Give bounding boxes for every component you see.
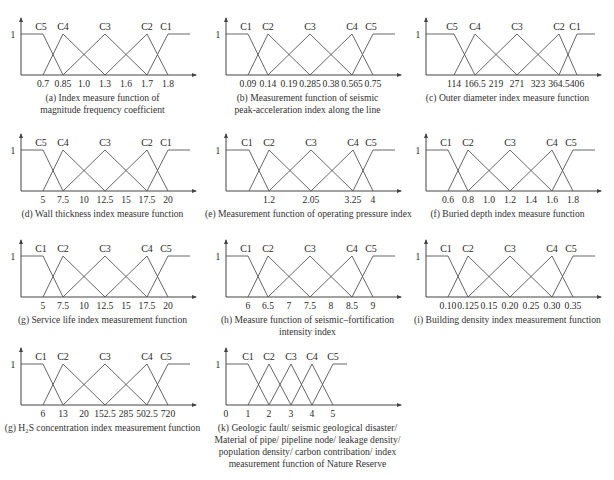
class-label-c5: C5	[565, 243, 577, 254]
x-tick-label: 1	[246, 408, 251, 419]
x-tick-label: 0.15	[481, 300, 498, 311]
curve-c2	[105, 34, 168, 75]
x-tick-labels: 57.51012.51517.520	[41, 194, 173, 205]
panel-caption: (e) Measurement function of operating pr…	[205, 208, 410, 220]
x-tick-label: 406	[570, 78, 585, 89]
class-label-c3: C3	[304, 243, 316, 254]
curve-c5	[147, 364, 190, 405]
class-label-c2: C2	[462, 243, 474, 254]
curve-c3	[475, 34, 559, 75]
class-label-c5: C5	[446, 21, 458, 32]
class-label-c1: C1	[240, 21, 252, 32]
class-labels: C5C4C3C2C1	[35, 137, 172, 148]
caption-line: Material of pipe/ pipeline node/ leakage…	[205, 434, 410, 446]
x-tick-label: 6.5	[262, 300, 274, 311]
x-tick-labels: 0.100.1250.150.200.250.300.35	[440, 300, 582, 311]
curve-c1	[559, 34, 595, 75]
class-label-c1: C1	[569, 21, 581, 32]
x-tick-label: 2.05	[303, 194, 320, 205]
x-tick-label: 1.8	[162, 78, 174, 89]
x-tick-labels: 012345	[224, 408, 336, 419]
curve-c1	[226, 150, 269, 191]
class-label-c4: C4	[469, 21, 481, 32]
y-tick-1: 1	[11, 359, 16, 370]
panel-caption: (k) Geologic fault/ seismic geological d…	[205, 422, 410, 470]
x-tick-labels: 61320152.5285502.5720	[41, 408, 176, 419]
class-label-c2: C2	[141, 137, 153, 148]
x-tick-labels: 66.577.588.59	[246, 300, 376, 311]
curve-c5	[552, 150, 595, 191]
class-labels: C1C2C3C4C5	[242, 351, 339, 362]
x-tick-label: 0.6	[442, 194, 454, 205]
panel-h: 1C1C2C3C4C566.577.588.59(h) Measure func…	[205, 232, 410, 338]
curve-c4	[311, 150, 373, 191]
x-tick-label: 1.4	[525, 194, 537, 205]
x-tick-label: 5	[41, 194, 46, 205]
x-tick-label: 0.7	[37, 78, 49, 89]
curve-c5	[21, 150, 63, 191]
x-tick-labels: 0.70.851.01.31.61.71.8	[37, 78, 174, 89]
class-labels: C5C4C3C2C1	[446, 21, 581, 32]
class-label-c1: C1	[240, 243, 252, 254]
panel-i: 1C1C2C3C4C50.100.1250.150.200.250.300.35…	[405, 232, 610, 326]
curve-c4	[454, 34, 517, 75]
class-label-c2: C2	[462, 137, 474, 148]
membership-curves	[21, 364, 190, 405]
curve-c4	[105, 256, 168, 297]
caption-line: magnitude frequency coefficient	[0, 104, 205, 116]
panel-caption: (a) Index measure function ofmagnitude f…	[0, 92, 205, 116]
plot-d: 1C5C4C3C2C157.51012.51517.520	[0, 126, 205, 208]
x-tick-label: 12.5	[97, 194, 114, 205]
curve-c2	[105, 150, 168, 191]
class-label-c4: C4	[141, 243, 153, 254]
caption-line: (c) Outer diameter index measure functio…	[405, 92, 610, 104]
x-tick-label: 0.10	[440, 300, 457, 311]
curve-c3	[468, 150, 552, 191]
x-tick-labels: 1.22.053.254	[263, 194, 376, 205]
x-tick-label: 20	[163, 194, 173, 205]
class-label-c1: C1	[241, 137, 253, 148]
class-label-c2: C2	[263, 137, 275, 148]
panel-k: 1C1C2C3C4C5012345(k) Geologic fault/ sei…	[205, 340, 410, 470]
x-tick-label: 13	[58, 408, 68, 419]
curve-c2	[248, 364, 291, 405]
x-tick-label: 15	[121, 300, 131, 311]
x-tick-labels: 114166.5219271323364.5406	[447, 78, 584, 89]
class-label-c2: C2	[57, 351, 69, 362]
panel-caption: (f) Buried depth index measure function	[405, 208, 610, 220]
curve-c1	[147, 34, 190, 75]
membership-curves	[21, 256, 190, 297]
panel-caption: (c) Outer diameter index measure functio…	[405, 92, 610, 104]
x-tick-label: 0.125	[457, 300, 479, 311]
curve-c3	[268, 34, 352, 75]
x-tick-label: 7.5	[304, 300, 316, 311]
x-tick-label: 114	[447, 78, 461, 89]
curve-c5	[552, 256, 595, 297]
curve-c5	[352, 256, 395, 297]
class-label-c2: C2	[262, 243, 274, 254]
class-label-c5: C5	[327, 351, 339, 362]
panel-d: 1C5C4C3C2C157.51012.51517.520(d) Wall th…	[0, 126, 205, 220]
class-label-c3: C3	[285, 351, 297, 362]
x-tick-label: 3	[289, 408, 294, 419]
panel-j: 1C1C2C3C4C561320152.5285502.5720(g) H₂S …	[0, 340, 205, 434]
class-label-c4: C4	[346, 21, 358, 32]
caption-line: intensity index	[205, 326, 410, 338]
membership-curves	[21, 34, 190, 75]
class-label-c3: C3	[504, 137, 516, 148]
class-label-c1: C1	[440, 137, 452, 148]
x-tick-label: 17.5	[139, 300, 156, 311]
caption-line: (k) Geologic fault/ seismic geological d…	[205, 422, 410, 434]
x-tick-label: 0.75	[365, 78, 382, 89]
membership-curves	[426, 256, 595, 297]
curve-c4	[43, 150, 105, 191]
class-label-c1: C1	[440, 243, 452, 254]
x-tick-label: 1.2	[263, 194, 275, 205]
x-tick-labels: 0.090.140.190.2850.380.5650.75	[240, 78, 382, 89]
curve-c1	[226, 364, 269, 405]
x-tick-label: 0.30	[544, 300, 561, 311]
curve-c4	[510, 256, 573, 297]
plot-f: 1C1C2C3C4C50.60.81.01.21.41.61.8	[405, 126, 610, 208]
x-tick-label: 7.5	[57, 300, 69, 311]
panel-g: 1C1C2C3C4C557.51012.51517.520(g) Service…	[0, 232, 205, 326]
